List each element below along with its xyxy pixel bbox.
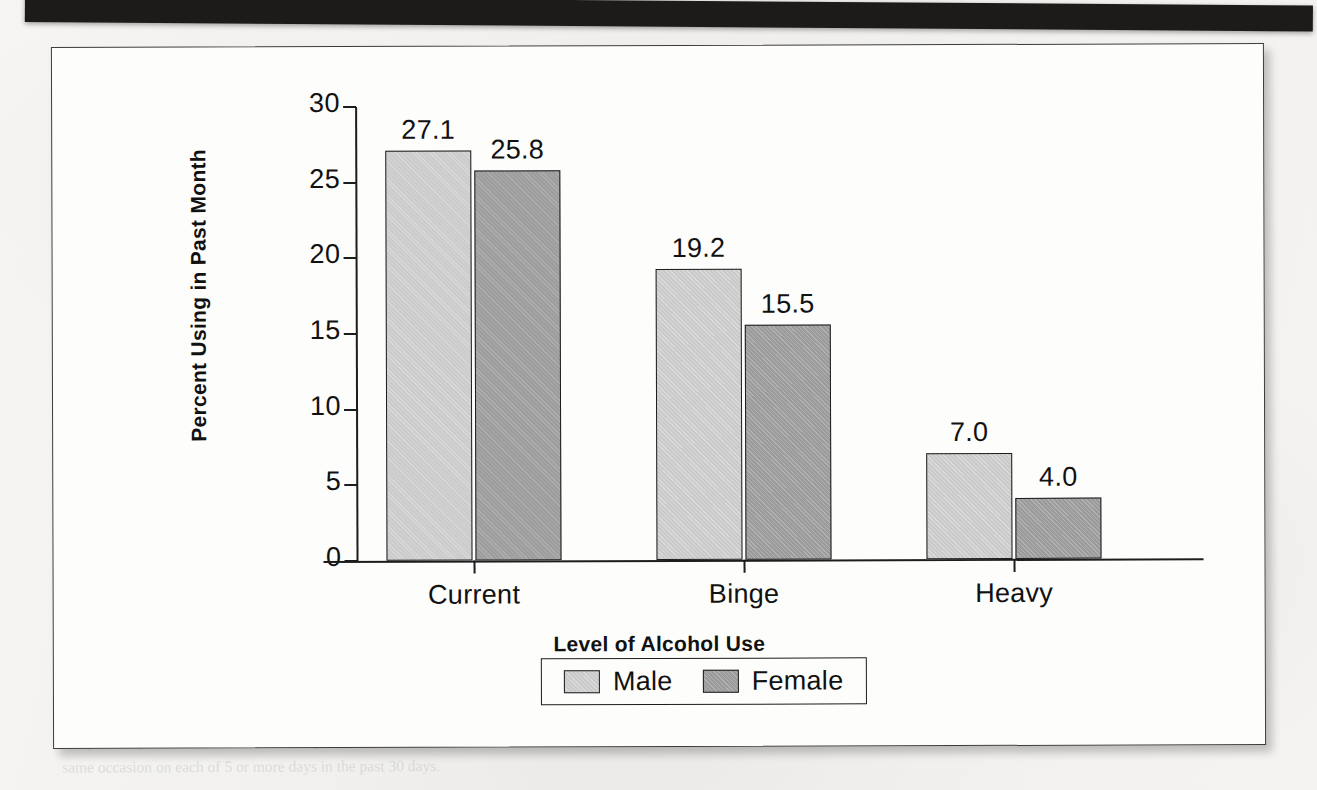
legend-item-male: Male (564, 666, 673, 697)
y-axis-tick-label: 30 (294, 88, 340, 119)
bars-layer: 27.125.819.215.57.04.0 (52, 44, 1263, 48)
x-axis-title: Level of Alcohol Use (54, 630, 1265, 658)
bar-value-label: 25.8 (457, 134, 577, 165)
legend-swatch-male-icon (564, 670, 600, 693)
y-axis-tick-label: 15 (295, 315, 341, 346)
bar-current-female (474, 170, 561, 561)
y-axis-tick-label: 0 (295, 542, 341, 573)
legend-swatch-female-icon (703, 670, 739, 693)
x-axis-tick (743, 560, 745, 573)
x-axis-category-label: Heavy (904, 578, 1124, 610)
bar-current-male (385, 150, 472, 560)
chart-frame: Percent Using in Past Month 051015202530… (51, 43, 1266, 749)
y-axis-title: Percent Using in Past Month (186, 85, 211, 505)
y-axis-tick-label: 10 (295, 391, 341, 422)
legend-label-male: Male (613, 666, 673, 697)
bar-binge-female (745, 325, 832, 560)
bar-value-label: 15.5 (728, 289, 848, 320)
plot-area: Percent Using in Past Month 051015202530… (52, 44, 1265, 748)
legend-item-female: Female (703, 665, 844, 696)
y-axis-tick-label: 5 (295, 466, 341, 497)
x-axis-ticks (52, 44, 1263, 48)
y-axis-tick-label: 20 (295, 239, 341, 270)
x-axis-tick (473, 561, 475, 574)
x-axis-tick (1013, 559, 1015, 572)
x-axis-category-label: Current (364, 579, 584, 611)
bar-value-label: 19.2 (638, 233, 758, 264)
bar-heavy-female (1015, 498, 1101, 559)
legend-label-female: Female (752, 665, 844, 696)
bar-value-label: 7.0 (909, 417, 1029, 448)
chart-legend: Male Female (541, 657, 867, 705)
bar-value-label: 4.0 (998, 462, 1118, 493)
y-axis-line (355, 107, 358, 562)
y-axis-ticks (52, 44, 1263, 48)
scan-header-band (25, 0, 1313, 31)
x-axis-category-label: Binge (634, 578, 854, 610)
y-axis-tick-label: 25 (294, 164, 340, 195)
x-axis-category-labels: CurrentBingeHeavy (52, 44, 1263, 48)
